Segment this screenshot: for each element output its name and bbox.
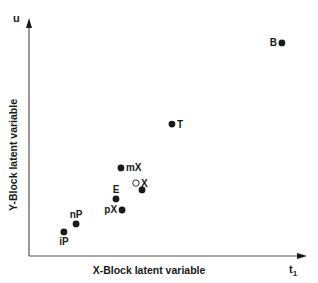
data-point: iP xyxy=(59,229,69,247)
data-point xyxy=(139,187,146,194)
data-points: BTmXXEpXnPiP xyxy=(59,37,285,247)
point-label: mX xyxy=(126,162,142,173)
filled-circle-marker-icon xyxy=(279,39,286,46)
data-point: mX xyxy=(118,162,142,173)
filled-circle-marker-icon xyxy=(73,221,80,228)
x-axis-title: X-Block latent variable xyxy=(93,264,206,276)
x-axis-symbol-sub: 1 xyxy=(293,269,298,278)
filled-circle-marker-icon xyxy=(113,195,120,202)
data-point: X xyxy=(133,178,148,189)
data-point: B xyxy=(270,37,286,48)
point-label: E xyxy=(113,184,120,195)
data-point: T xyxy=(169,119,184,130)
y-axis-title: Y-Block latent variable xyxy=(7,99,19,211)
point-label: nP xyxy=(70,209,83,220)
point-label: pX xyxy=(104,204,117,215)
x-axis-arrow-icon xyxy=(297,253,307,259)
y-axis-symbol: u xyxy=(13,12,20,24)
point-label: B xyxy=(270,37,277,48)
y-axis-arrow-icon xyxy=(26,18,32,28)
open-circle-marker-icon xyxy=(133,180,139,186)
data-point: E xyxy=(113,184,120,202)
filled-circle-marker-icon xyxy=(118,165,125,172)
point-label: iP xyxy=(59,236,69,247)
x-axis-symbol: t1 xyxy=(289,263,298,278)
filled-circle-marker-icon xyxy=(169,121,176,128)
filled-circle-marker-icon xyxy=(119,207,126,214)
data-point: nP xyxy=(70,209,83,227)
filled-circle-marker-icon xyxy=(61,229,68,236)
point-label: T xyxy=(177,119,183,130)
filled-circle-marker-icon xyxy=(139,187,146,194)
data-point: pX xyxy=(104,204,125,215)
scatter-chart: u t1 X-Block latent variable Y-Block lat… xyxy=(0,0,318,283)
